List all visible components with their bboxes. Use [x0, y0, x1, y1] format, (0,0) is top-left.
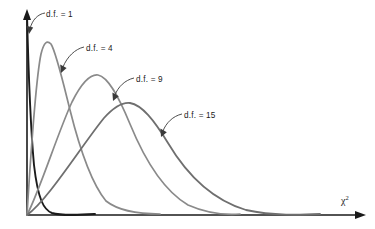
- chi-square-distribution-figure: d.f. = 1 d.f. = 4 d.f. = 9 d.f. = 15 χ2: [0, 0, 375, 229]
- curve-df-15: [27, 103, 320, 215]
- curve-df-1: [27, 14, 95, 215]
- leader-line-df-15: [163, 114, 182, 131]
- curve-df-4: [27, 42, 160, 215]
- annotation-label-df-1: d.f. = 1: [46, 11, 73, 19]
- curve-df-9: [27, 75, 240, 215]
- annotation-label-df-9: d.f. = 9: [136, 76, 163, 84]
- x-axis-label-exponent: 2: [345, 194, 348, 201]
- curves-group: [27, 14, 320, 215]
- annotation-label-df-4: d.f. = 4: [86, 45, 113, 53]
- leader-line-df-4: [63, 47, 84, 67]
- leader-line-df-1: [30, 13, 45, 29]
- x-axis-arrowhead-icon: [355, 211, 366, 219]
- leader-line-df-9: [115, 78, 134, 95]
- annotation-label-df-15: d.f. = 15: [184, 112, 216, 120]
- x-axis-label: χ2: [341, 195, 349, 206]
